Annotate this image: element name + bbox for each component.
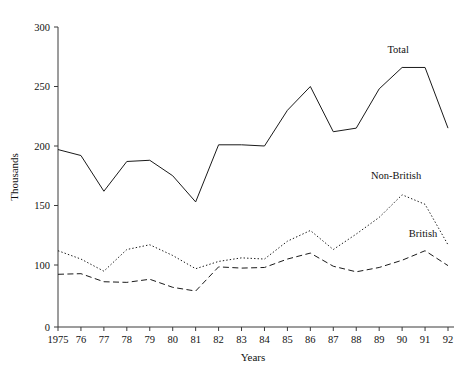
series-line-non-british	[58, 195, 448, 271]
x-tick-label: 77	[99, 334, 110, 345]
x-axis: 19757677787980818283848586878889909192	[48, 327, 455, 345]
series-label-non-british: Non-British	[371, 170, 422, 181]
y-tick-label: 200	[34, 141, 50, 152]
series-line-total	[58, 67, 448, 201]
x-tick-label: 86	[305, 334, 316, 345]
y-tick-label: 150	[34, 200, 50, 211]
x-tick-label: 79	[145, 334, 156, 345]
y-axis: 3002502001501000	[34, 22, 58, 333]
x-tick-label: 1975	[48, 334, 69, 345]
y-axis-title: Thousands	[8, 153, 20, 201]
line-chart: 3002502001501000 19757677787980818283848…	[0, 0, 465, 377]
x-tick-label: 92	[443, 334, 454, 345]
x-tick-label: 91	[420, 334, 431, 345]
y-tick-label: 300	[34, 22, 50, 33]
x-tick-label: 82	[213, 334, 224, 345]
series-label-total: Total	[387, 44, 409, 55]
x-tick-label: 84	[259, 334, 270, 345]
x-tick-label: 88	[351, 334, 362, 345]
y-tick-label: 100	[34, 260, 50, 271]
series-line-british	[58, 251, 448, 291]
x-tick-label: 78	[122, 334, 133, 345]
x-tick-label: 76	[76, 334, 87, 345]
x-axis-title: Years	[241, 351, 266, 363]
x-tick-label: 80	[167, 334, 178, 345]
y-tick-label: 250	[34, 81, 50, 92]
x-tick-label: 85	[282, 334, 293, 345]
chart-canvas: 3002502001501000 19757677787980818283848…	[0, 0, 465, 377]
x-tick-label: 90	[397, 334, 408, 345]
x-tick-label: 89	[374, 334, 385, 345]
y-tick-label: 0	[45, 322, 50, 333]
x-tick-label: 83	[236, 334, 247, 345]
series-label-british: British	[409, 228, 438, 239]
x-tick-label: 87	[328, 334, 339, 345]
x-tick-label: 81	[190, 334, 201, 345]
